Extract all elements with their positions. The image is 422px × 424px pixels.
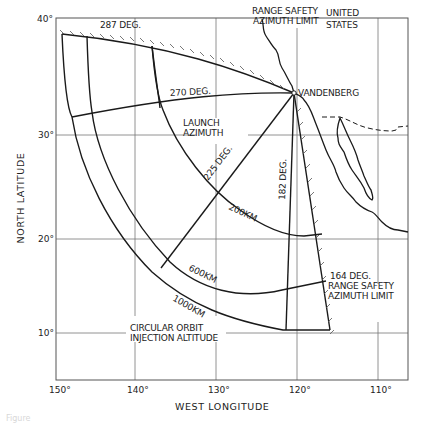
x-tick-120: 120° [289,385,311,395]
label-1000km: 1000KM [171,293,207,319]
arc-600km [87,36,326,294]
launch-azimuth-diagram: 287 DEG. RANGE SAFETY AZIMUTH LIMIT UNIT… [0,0,422,424]
grid [56,18,408,380]
azimuth-lines [62,34,330,330]
label-164-deg: 164 DEG. [330,271,371,281]
azimuth-182-line [286,93,294,330]
label-270-deg: 270 DEG. [170,86,211,98]
label-vandenberg: VANDENBERG [298,88,359,98]
label-182-deg: 182 DEG. [277,159,288,200]
x-tick-150: 150° [49,385,71,395]
label-200km: 200KM [227,202,258,224]
label-range-safety-south-1: RANGE SAFETY [328,281,394,291]
vandenberg-marker-icon [292,91,296,95]
figure-caption: Figure [6,414,31,423]
label-225-deg: 225 DEG. [202,144,235,183]
label-range-safety-north-1: RANGE SAFETY [252,6,318,16]
label-range-safety-south-2: AZIMUTH LIMIT [328,291,394,301]
arc-1000km [62,34,330,330]
label-united: UNITED [326,8,359,18]
y-axis-label: NORTH LATITUDE [15,153,26,244]
x-axis-label: WEST LONGITUDE [175,401,269,412]
border-dashed [322,117,408,131]
y-tick-40: 40° [37,14,53,24]
y-tick-30: 30° [38,130,54,140]
altitude-arcs [62,34,330,330]
label-states-text: STATES [326,20,358,30]
x-tick-110: 110° [370,385,392,395]
y-tick-20: 20° [38,234,54,244]
label-azimuth: AZIMUTH [183,128,223,138]
x-tick-130: 130° [208,385,230,395]
label-circular-orbit: CIRCULAR ORBIT [130,323,204,333]
azimuth-287-line [62,34,294,93]
azimuth-164-line [294,93,330,330]
label-287-deg: 287 DEG. [100,20,141,30]
y-tick-10: 10° [38,328,54,338]
plot-frame [56,18,408,380]
label-range-safety-north-2: AZIMUTH LIMIT [253,16,319,26]
x-tick-140: 140° [127,385,149,395]
label-launch: LAUNCH [183,118,220,128]
label-injection-altitude: INJECTION ALTITUDE [130,333,219,343]
label-600km: 600KM [187,263,218,285]
